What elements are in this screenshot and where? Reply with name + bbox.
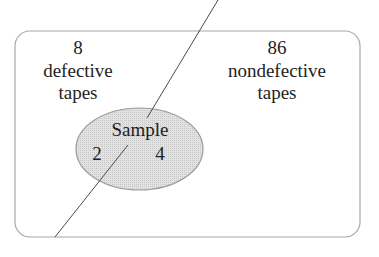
venn-diagram: 8 defective tapes 86 nondefective tapes … [0, 0, 379, 257]
nondefective-label-line1: nondefective [228, 60, 326, 81]
sample-defective-count: 2 [92, 143, 102, 164]
nondefective-count: 86 [268, 37, 287, 58]
sample-label: Sample [112, 119, 169, 140]
defective-label-line2: tapes [58, 82, 97, 103]
defective-count: 8 [73, 37, 83, 58]
defective-label-line1: defective [43, 60, 113, 81]
sample-nondefective-count: 4 [155, 143, 165, 164]
nondefective-label-line2: tapes [257, 82, 296, 103]
